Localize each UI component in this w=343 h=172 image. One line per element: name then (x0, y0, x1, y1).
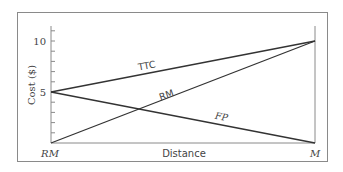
chart-svg: 5 10 Cost ($) TTC RM FP RM M Distance (0, 0, 343, 172)
xtick-label-m: M (309, 148, 321, 159)
y-ticks (51, 31, 55, 133)
series-label-rm: RM (157, 87, 175, 102)
ytick-label-5: 5 (40, 87, 46, 98)
series-line-rm (51, 41, 315, 143)
series-line-ttc (51, 41, 315, 92)
xtick-label-rm: RM (40, 148, 60, 159)
ytick-label-10: 10 (33, 36, 46, 47)
series-label-ttc: TTC (136, 58, 157, 72)
x-axis-label: Distance (162, 148, 206, 159)
series-label-fp: FP (213, 110, 229, 123)
y-axis-label: Cost ($) (26, 65, 37, 105)
series-line-fp (51, 92, 315, 143)
